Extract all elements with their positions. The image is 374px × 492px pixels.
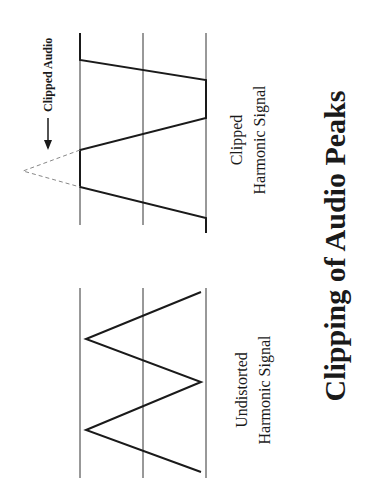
page-title: Clipping of Audio Peaks (318, 91, 351, 402)
undistorted-caption-line1: Undistorted (233, 352, 250, 428)
clipped-signal-diagram: Clipped Audio Clipped Harmonic Signal (23, 33, 269, 233)
diagram-canvas: Clipped Audio Clipped Harmonic Signal Un… (0, 0, 374, 492)
undistorted-caption-line2: Harmonic Signal (256, 335, 274, 444)
undistorted-signal-diagram: Undistorted Harmonic Signal (80, 288, 274, 478)
clipped-peak-dashed (23, 150, 80, 187)
arrow-down-icon (44, 140, 52, 150)
clipped-caption-line1: Clipped (228, 115, 246, 166)
clipped-audio-label: Clipped Audio (41, 38, 55, 112)
clipped-caption-line2: Harmonic Signal (251, 85, 269, 194)
